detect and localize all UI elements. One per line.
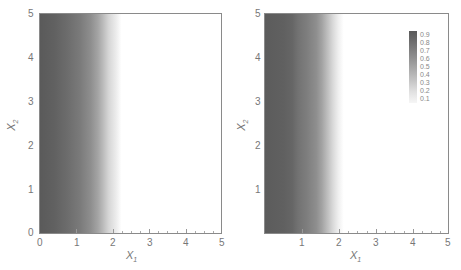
right-panel: 0.9 0.8 0.7 0.6 0.5 0.4 0.3 0.2 0.1 5 4 … bbox=[230, 0, 461, 270]
legend-label-0.8: 0.8 bbox=[420, 39, 430, 46]
right-ytick-3: 3 bbox=[255, 96, 261, 107]
left-ytick-1: 1 bbox=[28, 184, 34, 195]
left-panel: 5 4 3 2 1 0 0 1 2 3 4 5 X1 X2 bbox=[0, 0, 230, 270]
right-ytick-2: 2 bbox=[255, 140, 261, 151]
right-ytick-1: 1 bbox=[255, 184, 261, 195]
left-xtick-2: 2 bbox=[110, 237, 116, 248]
right-xtick-2: 2 bbox=[336, 237, 342, 248]
right-x-axis-label: X1 bbox=[350, 249, 361, 263]
legend-label-0.7: 0.7 bbox=[420, 47, 430, 54]
legend-label-0.6: 0.6 bbox=[420, 55, 430, 62]
left-ytick-3: 3 bbox=[28, 96, 34, 107]
left-xtick-4: 4 bbox=[183, 237, 189, 248]
left-xtick-3: 3 bbox=[147, 237, 153, 248]
colorbar bbox=[409, 31, 417, 103]
left-ytick-5: 5 bbox=[28, 8, 34, 19]
left-xtick-5: 5 bbox=[219, 237, 225, 248]
left-xtick-0: 0 bbox=[37, 237, 43, 248]
right-ytick-5: 5 bbox=[255, 8, 261, 19]
left-ytick-4: 4 bbox=[28, 52, 34, 63]
left-xtick-1: 1 bbox=[74, 237, 80, 248]
left-ytick-2: 2 bbox=[28, 140, 34, 151]
legend-label-0.2: 0.2 bbox=[420, 87, 430, 94]
left-y-axis-label: X2 bbox=[5, 119, 19, 130]
left-contour-plot bbox=[39, 13, 222, 234]
legend-label-0.5: 0.5 bbox=[420, 63, 430, 70]
legend-label-0.1: 0.1 bbox=[420, 95, 430, 102]
left-x-axis-label: X1 bbox=[126, 249, 137, 263]
right-xtick-4: 4 bbox=[410, 237, 416, 248]
legend-label-0.3: 0.3 bbox=[420, 79, 430, 86]
right-y-axis-label: X2 bbox=[235, 119, 249, 130]
legend-label-0.4: 0.4 bbox=[420, 71, 430, 78]
colorbar-legend: 0.9 0.8 0.7 0.6 0.5 0.4 0.3 0.2 0.1 bbox=[409, 31, 439, 111]
legend-label-0.9: 0.9 bbox=[420, 31, 430, 38]
right-xtick-5: 5 bbox=[445, 237, 451, 248]
right-ytick-4: 4 bbox=[255, 52, 261, 63]
left-ytick-0: 0 bbox=[28, 227, 34, 238]
right-xtick-3: 3 bbox=[373, 237, 379, 248]
right-xtick-1: 1 bbox=[299, 237, 305, 248]
right-contour-plot: 0.9 0.8 0.7 0.6 0.5 0.4 0.3 0.2 0.1 bbox=[264, 13, 449, 234]
